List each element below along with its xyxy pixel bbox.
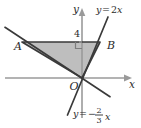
equation-label-y-equals-negative-two-thirds-x: y = − 2 3 x — [72, 106, 111, 125]
y-axis-label: y — [72, 3, 80, 15]
point-label-A: A — [13, 40, 22, 53]
equation-negfrac-denominator: 3 — [96, 116, 101, 125]
point-label-B: B — [106, 39, 115, 52]
equation-negfrac-numerator: 2 — [96, 106, 101, 115]
x-axis-label: x — [129, 78, 135, 90]
coordinate-geometry-figure: A B O 4 x y y = 2 x y = − 2 3 x — [0, 0, 141, 128]
equation-negfrac-lhs: y — [72, 108, 79, 119]
origin-label-O: O — [69, 80, 78, 93]
figure-container: A B O 4 x y y = 2 x y = − 2 3 x — [0, 0, 141, 128]
equation-y-2x-lhs: y — [95, 4, 102, 15]
line-y-equals-negative-two-thirds-x — [5, 27, 110, 96]
y-tick-label-4: 4 — [74, 28, 80, 39]
equation-y-2x-equals: = — [102, 4, 110, 15]
shaded-triangle-OAB — [22, 42, 100, 78]
equation-label-y-equals-2x: y = 2 x — [95, 4, 123, 15]
equation-negfrac-sign: − — [88, 108, 96, 119]
equation-negfrac-equals: = — [79, 108, 87, 119]
y-axis-arrow-icon — [79, 8, 86, 16]
equation-negfrac-variable: x — [105, 111, 111, 122]
equation-y-2x-variable: x — [117, 4, 123, 15]
